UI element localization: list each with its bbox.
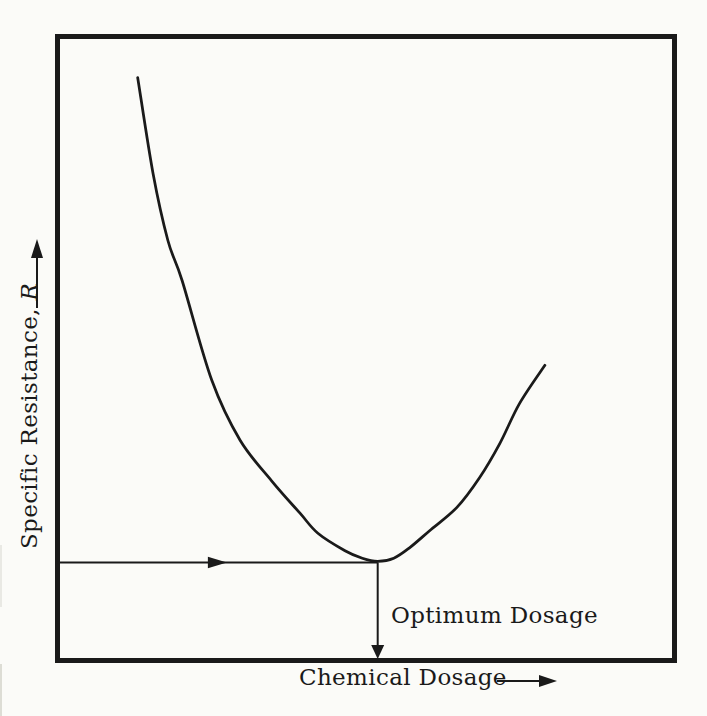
plot-frame [58,37,675,661]
resistance-curve [138,78,545,562]
x-axis-label: Chemical Dosage [299,664,507,690]
chart-canvas [0,0,707,716]
optimum-dosage-marker [371,563,384,660]
y-axis-label-text: Specific Resistance, [16,300,42,549]
optimum-dosage-figure: Specific Resistance, R Optimum Dosage Ch… [0,0,707,716]
scan-edge-artifact [0,664,2,716]
optimum-dosage-annotation: Optimum Dosage [391,602,598,628]
scan-edge-artifact [0,545,2,607]
down-arrowhead-icon [371,645,384,659]
y-axis-label-variable: R [16,283,42,301]
optimum-level-guide [58,557,378,568]
right-arrowhead-icon [208,557,227,568]
y-axis-label: Specific Resistance, R [16,283,42,549]
